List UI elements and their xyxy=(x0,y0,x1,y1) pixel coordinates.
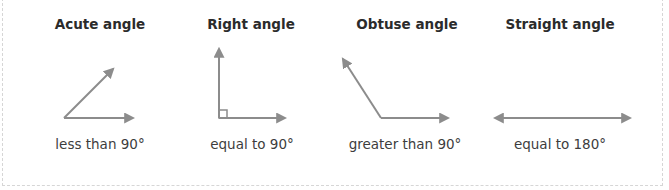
straight-angle-title: Straight angle xyxy=(485,16,635,32)
straight-angle-caption: equal to 180° xyxy=(470,136,650,152)
right-angle-marker-icon xyxy=(219,110,227,118)
obtuse-angle-figure xyxy=(343,59,448,118)
acute-ray-up-arrow-icon xyxy=(64,69,113,118)
acute-angle-figure xyxy=(64,69,133,118)
acute-angle-title: Acute angle xyxy=(25,16,175,32)
obtuse-ray-upleft-arrow-icon xyxy=(343,59,381,118)
obtuse-angle-title: Obtuse angle xyxy=(332,16,482,32)
right-angle-figure xyxy=(219,49,285,118)
right-angle-title: Right angle xyxy=(176,16,326,32)
obtuse-angle-caption: greater than 90° xyxy=(315,136,495,152)
